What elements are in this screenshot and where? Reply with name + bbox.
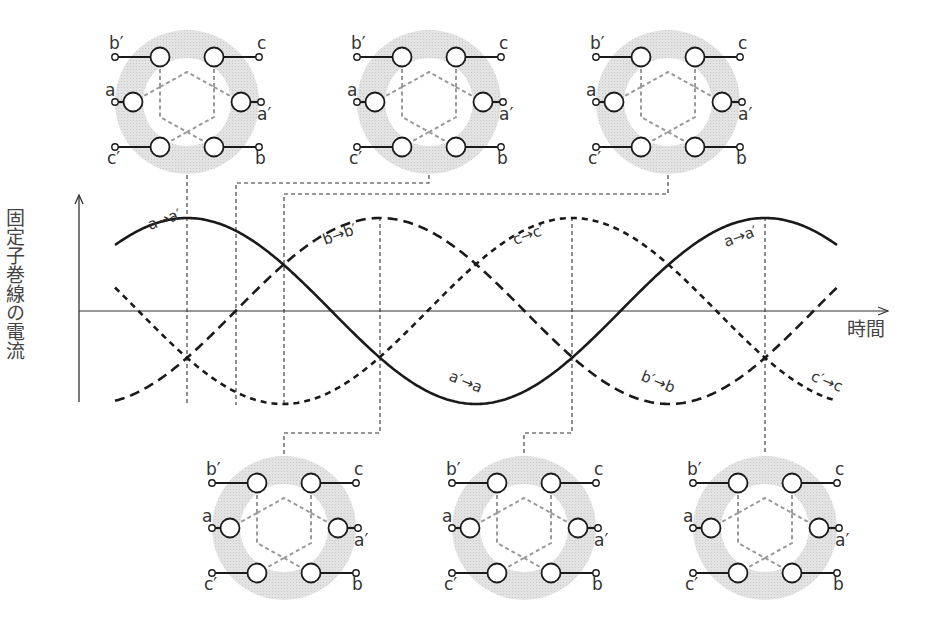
curve-label: b′→b [639,367,678,397]
coil-icon [393,138,412,157]
coil-icon [569,519,588,538]
terminal-b-label: b [497,148,508,168]
terminal-c-prime-label: c′ [685,574,698,594]
terminal-b-prime-label: b′ [206,459,221,479]
coil-icon [205,48,224,67]
terminal-b-prime-terminal-icon [112,54,118,60]
stator-diagrams: b′caa′c′bb′caa′c′bb′caa′c′bb′caa′c′bb′ca… [105,30,849,600]
curve-labels: a→a′b→b′c→c′a→a′a′→ab′→bc′→c [145,205,845,397]
coil-icon [729,474,748,493]
terminal-a-prime-label: a′ [835,530,849,550]
terminal-c-label: c [594,459,603,479]
terminal-b-label: b [736,148,747,168]
terminal-a-label: a [683,506,693,526]
terminal-b-label: b [352,574,363,594]
coil-icon [447,48,466,67]
connector-t2 [236,175,429,405]
coil-icon [729,564,748,583]
terminal-c-terminal-icon [353,480,359,486]
terminal-b-prime-terminal-icon [690,480,696,486]
terminal-b-label: b [255,148,266,168]
coil-icon [232,93,251,112]
terminal-b-prime-label: b′ [109,33,124,53]
stator-bottom-3: b′caa′c′b [683,456,849,600]
stator-bottom-2: b′caa′c′b [442,456,608,600]
terminal-a-prime-label: a′ [738,104,752,124]
coil-icon [124,93,143,112]
coil-icon [474,93,493,112]
terminal-c-prime-label: c′ [444,574,457,594]
terminal-c-label: c [835,459,844,479]
terminal-c-terminal-icon [737,54,743,60]
terminal-b-prime-terminal-icon [593,54,599,60]
coil-icon [302,564,321,583]
coil-icon [393,48,412,67]
coil-icon [542,474,561,493]
terminal-c-terminal-icon [256,54,262,60]
coil-icon [702,519,721,538]
terminal-c-prime-label: c′ [349,148,362,168]
terminal-a-prime-label: a′ [499,104,513,124]
terminal-a-label: a [442,506,452,526]
terminal-b-prime-label: b′ [351,33,366,53]
terminal-c-terminal-icon [834,480,840,486]
coil-icon [632,48,651,67]
terminal-c-prime-label: c′ [204,574,217,594]
stator-top-3: b′caa′c′b [586,30,752,174]
coil-icon [151,48,170,67]
coil-icon [488,564,507,583]
coil-icon [783,564,802,583]
terminal-c-prime-label: c′ [588,148,601,168]
curve-label: b→b′ [320,220,360,249]
stator-bottom-1: b′caa′c′b [202,456,368,600]
coil-icon [447,138,466,157]
terminal-c-label: c [499,33,508,53]
axes [75,195,888,402]
coil-icon [151,138,170,157]
coil-icon [605,93,624,112]
terminal-a-prime-label: a′ [257,104,271,124]
terminal-a-label: a [347,80,357,100]
coil-icon [810,519,829,538]
stator-top-1: b′caa′c′b [105,30,271,174]
terminal-c-label: c [257,33,266,53]
connector-t3 [284,175,668,405]
coil-icon [686,48,705,67]
three-phase-current-diagram: a→a′b→b′c→c′a→a′a′→ab′→bc′→c b′caa′c′bb′… [0,0,938,624]
curve-label: c→c′ [510,221,547,249]
coil-icon [713,93,732,112]
connector-lines [187,175,765,455]
terminal-c-terminal-icon [498,54,504,60]
terminal-b-label: b [592,574,603,594]
connector-b2 [524,217,572,455]
terminal-b-prime-terminal-icon [449,480,455,486]
curve-label: a′→a [447,367,486,397]
terminal-a-label: a [105,80,115,100]
coil-icon [686,138,705,157]
terminal-c-label: c [354,459,363,479]
coil-icon [632,138,651,157]
terminal-b-prime-label: b′ [446,459,461,479]
coil-icon [488,474,507,493]
terminal-c-label: c [738,33,747,53]
coil-icon [248,564,267,583]
terminal-a-label: a [202,506,212,526]
terminal-b-prime-terminal-icon [354,54,360,60]
curve-label: a→a′ [145,205,184,234]
coil-icon [542,564,561,583]
coil-icon [329,519,348,538]
coil-icon [366,93,385,112]
terminal-b-label: b [833,574,844,594]
coil-icon [248,474,267,493]
stator-top-2: b′caa′c′b [347,30,513,174]
coil-icon [783,474,802,493]
terminal-a-prime-label: a′ [354,530,368,550]
coil-icon [221,519,240,538]
coil-icon [205,138,224,157]
terminal-a-label: a [586,80,596,100]
terminal-b-prime-terminal-icon [209,480,215,486]
curve-label: c′→c [809,367,846,396]
terminal-c-prime-label: c′ [107,148,120,168]
coil-icon [302,474,321,493]
connector-b1 [284,217,380,455]
